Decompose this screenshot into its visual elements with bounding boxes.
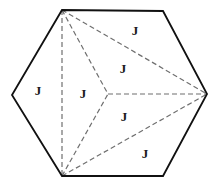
hexagon-figure-canvas: J J J J J J [0, 0, 220, 190]
figure-background [0, 0, 220, 190]
region-label-top: J [132, 23, 139, 38]
region-label-bottom: J [142, 146, 149, 161]
region-label-left: J [35, 83, 42, 98]
region-label-lower-middle: J [121, 109, 128, 124]
region-label-upper-middle: J [120, 61, 127, 76]
region-label-center-left: J [80, 86, 87, 101]
hexagon-figure: J J J J J J [0, 0, 220, 190]
